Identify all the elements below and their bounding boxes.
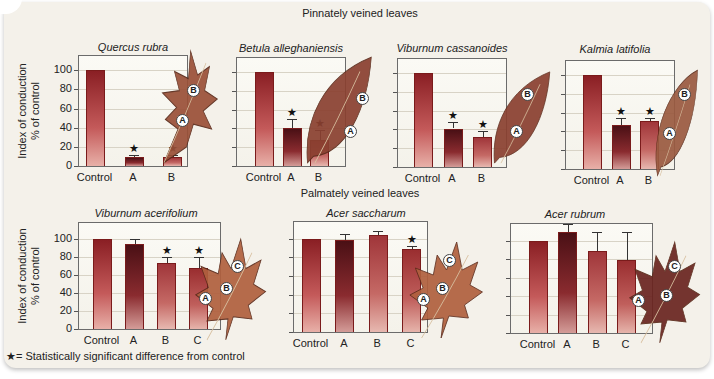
- y-axis-label: Index of conduction% of control: [16, 51, 44, 171]
- error-bar-cap: [315, 130, 325, 131]
- leaf-position-marker-c: C: [443, 254, 456, 267]
- gridline: [237, 72, 345, 73]
- y-tick-mark: [74, 329, 78, 330]
- bar-c: [402, 249, 421, 332]
- leaf-position-marker-c: C: [668, 260, 681, 273]
- x-tick-label: C: [386, 337, 436, 349]
- chart-title: Kalmia latifolia: [535, 43, 695, 55]
- y-tick-mark: [506, 241, 510, 242]
- y-tick-mark: [561, 169, 565, 170]
- y-tick-mark: [561, 75, 565, 76]
- bar-b: [588, 251, 607, 333]
- y-tick-label: 40: [44, 286, 72, 298]
- y-tick-mark: [74, 311, 78, 312]
- y-tick-label: 60: [44, 268, 72, 280]
- y-tick-mark: [393, 111, 397, 112]
- y-tick-mark: [561, 150, 565, 151]
- x-tick-label: C: [173, 334, 223, 346]
- chart-title: Betula alleghaniensis: [211, 42, 371, 54]
- error-bar-cap: [129, 155, 139, 156]
- y-axis-label-line1: Index of conduction: [16, 51, 29, 171]
- leaf-position-marker-b: B: [187, 84, 200, 97]
- bar-b: [369, 235, 388, 332]
- error-bar-cap: [373, 231, 383, 232]
- plot-area: [510, 223, 653, 334]
- pinnate-group-title: Pinnately veined leaves: [250, 7, 470, 19]
- y-tick-mark: [289, 332, 293, 333]
- error-bar-cap: [162, 257, 172, 258]
- error-bar-cap: [592, 232, 602, 233]
- y-tick-mark: [232, 110, 236, 111]
- y-tick-mark: [74, 239, 78, 240]
- error-bar-cap: [168, 155, 178, 156]
- x-tick-label: B: [294, 171, 344, 183]
- plot-area: ★★: [236, 57, 346, 167]
- y-tick-mark: [289, 257, 293, 258]
- y-tick-mark: [561, 131, 565, 132]
- bar-b: [473, 137, 492, 167]
- leaf-position-marker-b: B: [356, 92, 369, 105]
- plot-area: ★★: [565, 60, 675, 170]
- leaf-position-marker-a: A: [663, 127, 676, 140]
- y-tick-mark: [74, 166, 78, 167]
- plot-area: ★★: [78, 222, 221, 330]
- y-tick-label: 80: [44, 250, 72, 262]
- y-tick-label: 20: [44, 140, 72, 152]
- y-tick-mark: [232, 91, 236, 92]
- y-tick-mark: [232, 128, 236, 129]
- bar-b: [157, 263, 176, 329]
- bar-control: [86, 70, 105, 166]
- plot-area: ★★: [397, 58, 507, 168]
- leaf-position-marker-a: A: [344, 125, 357, 138]
- y-tick-mark: [74, 70, 78, 71]
- leaf-position-marker-b: B: [521, 88, 534, 101]
- bar-a: [444, 129, 463, 168]
- chart-title: Viburnum cassanoides: [372, 42, 532, 54]
- y-axis-label: Index of conduction% of control: [16, 216, 44, 336]
- y-tick-mark: [506, 315, 510, 316]
- significance-star-icon: ★: [193, 244, 205, 257]
- significance-star-icon: ★: [615, 105, 627, 118]
- y-axis-label-line2: % of control: [29, 216, 42, 336]
- y-axis-label-line2: % of control: [29, 51, 42, 171]
- y-tick-label: 60: [44, 102, 72, 114]
- bar-a: [558, 232, 577, 333]
- y-tick-mark: [393, 92, 397, 93]
- significance-star-icon: ★: [314, 117, 326, 130]
- leaf-position-marker-a: A: [199, 292, 212, 305]
- chart-title: Quercus rubra: [53, 41, 213, 53]
- y-tick-label: 100: [44, 232, 72, 244]
- y-tick-mark: [74, 109, 78, 110]
- y-tick-mark: [289, 276, 293, 277]
- error-bar-cap: [645, 118, 655, 119]
- y-axis-label-line1: Index of conduction: [16, 216, 29, 336]
- y-tick-mark: [289, 239, 293, 240]
- leaf-position-marker-c: C: [231, 260, 244, 273]
- bar-a: [335, 240, 354, 332]
- error-bar: [597, 232, 598, 250]
- bar-b: [163, 157, 182, 166]
- plot-area: ★★: [78, 55, 188, 167]
- y-tick-mark: [393, 73, 397, 74]
- error-bar-cap: [130, 239, 140, 240]
- significance-star-icon: ★: [286, 106, 298, 119]
- y-tick-label: 0: [44, 322, 72, 334]
- error-bar-cap: [616, 118, 626, 119]
- y-tick-mark: [74, 257, 78, 258]
- bar-b: [310, 140, 329, 166]
- y-tick-label: 100: [44, 63, 72, 75]
- y-tick-mark: [232, 72, 236, 73]
- y-tick-mark: [74, 128, 78, 129]
- leaf-position-marker-b: B: [220, 282, 233, 295]
- y-tick-mark: [74, 293, 78, 294]
- error-bar: [292, 119, 293, 128]
- error-bar: [627, 232, 628, 260]
- error-bar-cap: [622, 232, 632, 233]
- y-tick-mark: [74, 89, 78, 90]
- y-tick-mark: [506, 333, 510, 334]
- y-tick-mark: [561, 113, 565, 114]
- error-bar: [568, 224, 569, 232]
- leaf-position-marker-a: A: [176, 114, 189, 127]
- leaf-position-marker-a: A: [417, 293, 430, 306]
- y-tick-mark: [506, 296, 510, 297]
